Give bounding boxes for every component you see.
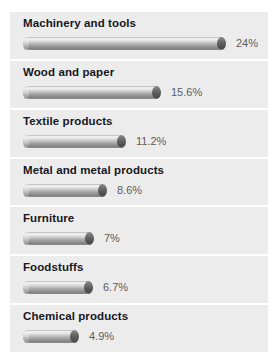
chart-row: Textile products 11.2% xyxy=(10,110,268,157)
bar-end-cap-icon xyxy=(117,135,126,148)
bar-track: 15.6% xyxy=(23,85,262,100)
bar-end-cap-icon xyxy=(85,232,94,245)
row-label: Metal and metal products xyxy=(23,164,164,176)
bar-left-cap-icon xyxy=(23,330,29,343)
bar-end-cap-icon xyxy=(84,281,93,294)
chart-row: Machinery and tools 24% xyxy=(10,12,268,59)
bar-value-label: 7% xyxy=(104,231,120,246)
row-label: Chemical products xyxy=(23,310,128,322)
bar-left-cap-icon xyxy=(23,184,29,197)
bar-cylinder xyxy=(23,330,78,343)
chart-row: Foodstuffs 6.7% xyxy=(10,256,268,303)
bar-value-label: 6.7% xyxy=(103,280,128,295)
chart-row: Wood and paper 15.6% xyxy=(10,61,268,108)
row-label: Textile products xyxy=(23,115,113,127)
bar-end-cap-icon xyxy=(98,184,107,197)
bar-track: 7% xyxy=(23,231,262,246)
bar-cylinder xyxy=(23,184,106,197)
chart-row: Chemical products 4.9% xyxy=(10,305,268,352)
bar-cylinder xyxy=(23,232,93,245)
bar-value-label: 4.9% xyxy=(89,329,114,344)
bar-track: 24% xyxy=(23,36,262,51)
row-label: Machinery and tools xyxy=(23,17,136,29)
bar-value-label: 24% xyxy=(236,36,258,51)
bar-left-cap-icon xyxy=(23,86,29,99)
bar-left-cap-icon xyxy=(23,37,29,50)
bar-end-cap-icon xyxy=(152,86,161,99)
bar-track: 4.9% xyxy=(23,329,262,344)
bar-value-label: 15.6% xyxy=(171,85,202,100)
bar-value-label: 8.6% xyxy=(117,183,142,198)
bar-left-cap-icon xyxy=(23,281,29,294)
chart-row: Furniture 7% xyxy=(10,207,268,254)
bar-cylinder xyxy=(23,86,160,99)
bar-track: 11.2% xyxy=(23,134,262,149)
bar-cylinder xyxy=(23,281,92,294)
bar-value-label: 11.2% xyxy=(136,134,166,149)
bar-chart: Machinery and tools 24% Wood and paper 1… xyxy=(10,12,268,352)
bar-track: 8.6% xyxy=(23,183,262,198)
bar-end-cap-icon xyxy=(217,37,226,50)
bar-left-cap-icon xyxy=(23,135,29,148)
bar-end-cap-icon xyxy=(70,330,79,343)
row-label: Furniture xyxy=(23,212,74,224)
chart-row: Metal and metal products 8.6% xyxy=(10,159,268,206)
row-label: Foodstuffs xyxy=(23,261,83,273)
bar-cylinder xyxy=(23,37,225,50)
bar-left-cap-icon xyxy=(23,232,29,245)
row-label: Wood and paper xyxy=(23,66,114,78)
bar-track: 6.7% xyxy=(23,280,262,295)
bar-cylinder xyxy=(23,135,125,148)
